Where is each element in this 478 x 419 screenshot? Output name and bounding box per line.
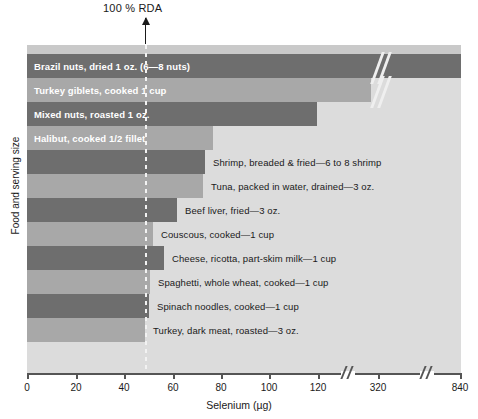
bar-label-2: Mixed nuts, roasted 1 oz. [27,109,149,120]
bar-label-6: Beef liver, fried—3 oz. [185,205,280,216]
bar-label-9: Spaghetti, whole wheat, cooked—1 cup [158,277,329,288]
x-axis-line [27,373,461,375]
axis-break-mark [341,366,355,378]
bar-label-5: Tuna, packed in water, drained—3 oz. [211,181,374,192]
bar-8 [27,246,164,270]
bar-3: Halibut, cooked 1/2 fillet [27,126,213,150]
x-tick-120 [318,373,320,379]
x-tick-100 [269,373,271,379]
x-tick-label-60: 60 [167,382,178,393]
axis-break-mark [420,366,434,378]
x-tick-80 [221,373,223,379]
x-tick-0 [27,373,29,379]
bar-label-3: Halibut, cooked 1/2 fillet [27,133,145,144]
x-tick-label-840: 840 [452,382,469,393]
x-tick-60 [173,373,175,379]
bar-label-11: Turkey, dark meat, roasted—3 oz. [153,325,299,336]
x-tick-label-0: 0 [24,382,30,393]
bar-label-7: Couscous, cooked—1 cup [161,229,274,240]
x-tick-40 [124,373,126,379]
bar-1: Turkey giblets, cooked 1 cup [27,78,371,102]
x-tick-840 [460,373,462,379]
x-tick-label-120: 120 [310,382,327,393]
bar-4 [27,150,205,174]
selenium-bar-chart: 100 % RDA Brazil nuts, dried 1 oz. (6—8 … [0,0,478,419]
x-tick-320 [378,373,380,379]
bar-label-0: Brazil nuts, dried 1 oz. (6—8 nuts) [27,61,190,72]
bar-label-4: Shrimp, breaded & fried—6 to 8 shrimp [213,157,381,168]
bar-6 [27,198,177,222]
x-tick-label-100: 100 [261,382,278,393]
plot-top-strip [27,45,461,54]
bar-0: Brazil nuts, dried 1 oz. (6—8 nuts) [27,54,461,78]
rda-arrow-icon [145,18,146,44]
y-axis-title: Food and serving size [10,101,21,271]
bar-5 [27,174,203,198]
rda-annotation: 100 % RDA [0,0,478,46]
bar-7 [27,222,153,246]
bar-11 [27,318,145,342]
bar-9 [27,270,150,294]
x-tick-20 [76,373,78,379]
bar-break-mark [375,78,389,106]
rda-guideline [145,45,147,373]
x-tick-label-40: 40 [118,382,129,393]
x-tick-label-20: 20 [70,382,81,393]
bar-label-10: Spinach noodles, cooked—1 cup [157,301,299,312]
x-tick-label-80: 80 [215,382,226,393]
bar-10 [27,294,149,318]
bar-2: Mixed nuts, roasted 1 oz. [27,102,317,126]
x-tick-label-320: 320 [370,382,387,393]
bar-label-8: Cheese, ricotta, part-skim milk—1 cup [172,253,336,264]
rda-label: 100 % RDA [103,2,162,14]
x-axis-title: Selenium (µg) [0,399,478,411]
